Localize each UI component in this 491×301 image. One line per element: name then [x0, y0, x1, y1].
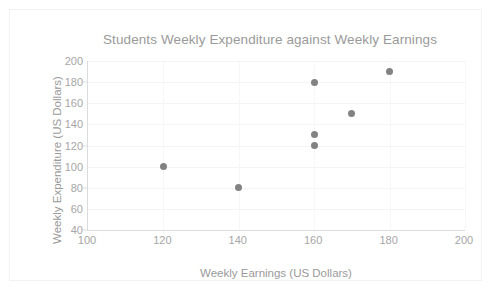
gridline-horizontal: [88, 146, 465, 147]
y-axis-tick-label: 140: [43, 118, 83, 130]
gridline-horizontal: [88, 124, 465, 125]
chart-title: Students Weekly Expenditure against Week…: [70, 32, 470, 47]
data-point[interactable]: [160, 163, 167, 170]
x-axis-tick-labels: 100120140160180200: [87, 234, 465, 254]
data-point[interactable]: [311, 79, 318, 86]
data-point[interactable]: [386, 68, 393, 75]
x-axis-tick-label: 160: [283, 234, 343, 246]
gridline-horizontal: [88, 209, 465, 210]
y-axis-title: Weekly Expenditure (US Dollars): [51, 65, 63, 255]
x-axis-tick-label: 120: [132, 234, 192, 246]
gridline-vertical: [465, 61, 466, 230]
y-axis-tick-label: 120: [43, 140, 83, 152]
gridline-vertical: [163, 61, 164, 230]
gridline-horizontal: [88, 82, 465, 83]
gridline-horizontal: [88, 167, 465, 168]
x-axis-tick-label: 180: [359, 234, 419, 246]
data-point[interactable]: [311, 131, 318, 138]
x-axis-tick-label: 200: [434, 234, 491, 246]
y-axis-title-wrapper: Weekly Expenditure (US Dollars): [24, 50, 44, 250]
gridline-horizontal: [88, 103, 465, 104]
gridline-vertical: [239, 61, 240, 230]
gridline-horizontal: [88, 188, 465, 189]
chart-frame: Students Weekly Expenditure against Week…: [9, 9, 482, 281]
y-axis-tick-label: 80: [43, 182, 83, 194]
gridline-horizontal: [88, 61, 465, 62]
x-axis-tick-label: 100: [57, 234, 117, 246]
data-point[interactable]: [235, 184, 242, 191]
data-point[interactable]: [348, 110, 355, 117]
x-axis-tick-label: 140: [208, 234, 268, 246]
y-axis-tick-label: 180: [43, 76, 83, 88]
y-axis-tick-label: 200: [43, 55, 83, 67]
y-axis-tick-label: 160: [43, 97, 83, 109]
y-axis-tick-label: 100: [43, 161, 83, 173]
gridline-vertical: [390, 61, 391, 230]
plot-area: [87, 61, 465, 231]
data-point[interactable]: [311, 142, 318, 149]
x-axis-title: Weekly Earnings (US Dollars): [87, 267, 465, 279]
y-axis-tick-label: 60: [43, 203, 83, 215]
